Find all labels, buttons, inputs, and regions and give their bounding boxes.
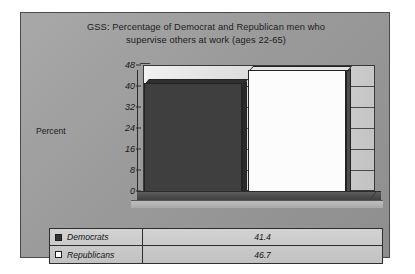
y-tick-label-48: 48	[125, 60, 135, 70]
chart-title-line-2: supervise others at work (ages 22-65)	[39, 34, 373, 47]
table-row[interactable]: Republicans 46.7	[50, 246, 382, 263]
filled-square-icon	[55, 234, 62, 241]
bar-group	[144, 65, 374, 192]
value-cell-democrats: 41.4	[143, 229, 382, 245]
y-tick-label-16: 16	[125, 144, 135, 154]
legend-cell-republicans: Republicans	[50, 246, 143, 263]
bar-democrats-side-face	[242, 81, 247, 196]
bar-democrats[interactable]	[144, 79, 242, 192]
legend-label-republicans: Republicans	[67, 250, 114, 260]
chart-title-line-1: GSS: Percentage of Democrat and Republic…	[39, 21, 373, 34]
hollow-square-icon	[55, 251, 62, 258]
y-tick-label-24: 24	[125, 123, 135, 133]
chart-title: GSS: Percentage of Democrat and Republic…	[39, 21, 373, 47]
legend-data-table: Democrats 41.4 Republicans 46.7	[49, 228, 383, 264]
y-tick-label-8: 8	[130, 165, 135, 175]
legend-cell-democrats: Democrats	[50, 229, 143, 245]
value-cell-republicans: 46.7	[143, 246, 382, 263]
chart-screenshot: GSS: Percentage of Democrat and Republic…	[0, 0, 415, 274]
bar-democrats-front-face	[144, 83, 242, 192]
chart-frame: GSS: Percentage of Democrat and Republic…	[20, 12, 390, 258]
value-democrats: 41.4	[254, 232, 271, 242]
legend-label-democrats: Democrats	[67, 232, 109, 242]
y-axis-label: Percent	[36, 126, 66, 136]
plot-area: 48 40 32 24 16 8 0	[117, 65, 383, 212]
y-tick-label-32: 32	[125, 102, 135, 112]
plot-floor-front	[131, 200, 383, 208]
bar-republicans-side-face	[346, 68, 351, 196]
bar-republicans-front-face	[248, 70, 346, 192]
bar-republicans[interactable]	[248, 66, 346, 192]
y-tick-label-0: 0	[130, 186, 135, 196]
y-tick-label-40: 40	[125, 81, 135, 91]
value-republicans: 46.7	[254, 250, 271, 260]
y-axis-line	[137, 70, 138, 198]
table-row[interactable]: Democrats 41.4	[50, 229, 382, 246]
